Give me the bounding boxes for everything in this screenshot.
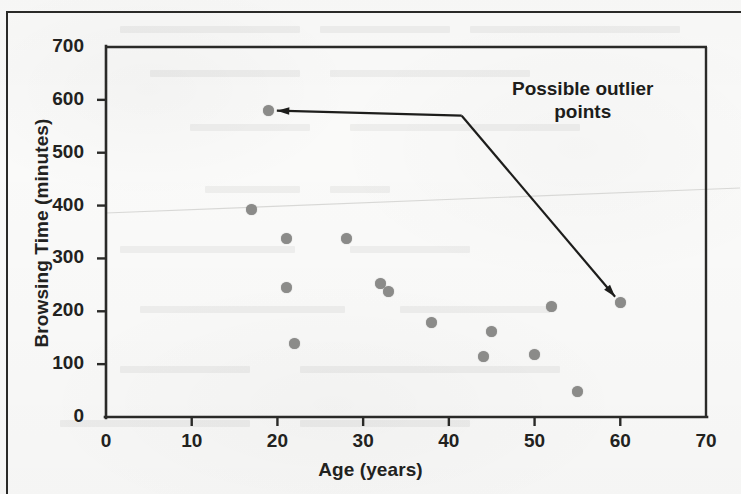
- scan-artifact-line: [106, 188, 740, 213]
- data-point: [572, 386, 583, 397]
- x-tick-label-60: 60: [592, 430, 648, 452]
- x-tick-label-30: 30: [335, 430, 391, 452]
- x-axis-ticks: [192, 417, 621, 426]
- y-axis-ticks: [97, 100, 106, 364]
- data-point: [341, 233, 352, 244]
- annotation-arrow: [277, 107, 615, 297]
- data-point: [478, 351, 489, 362]
- data-point: [281, 233, 292, 244]
- x-tick-label-20: 20: [249, 430, 305, 452]
- data-point: [281, 282, 292, 293]
- outlier-annotation-label: Possible outlier points: [478, 77, 688, 123]
- x-tick-label-50: 50: [507, 430, 563, 452]
- x-tick-label-70: 70: [678, 430, 734, 452]
- x-axis-title: Age (years): [0, 459, 741, 481]
- data-point: [426, 317, 437, 328]
- annotation-arrow-line-left: [277, 111, 462, 116]
- data-point: [546, 301, 557, 312]
- y-tick-label-0: 0: [28, 405, 84, 427]
- x-tick-label-10: 10: [164, 430, 220, 452]
- x-tick-label-40: 40: [421, 430, 477, 452]
- annotation-arrowhead-left: [277, 107, 290, 115]
- x-tick-label-0: 0: [78, 430, 134, 452]
- data-point: [289, 338, 300, 349]
- y-axis-title: Browsing Time (minutes): [31, 83, 53, 383]
- annotation-arrow-line-right: [462, 116, 615, 297]
- chart-page: 0100200300400500600700010203040506070 Br…: [0, 0, 741, 494]
- scatter-plot: [0, 0, 741, 494]
- y-tick-label-700: 700: [28, 35, 84, 57]
